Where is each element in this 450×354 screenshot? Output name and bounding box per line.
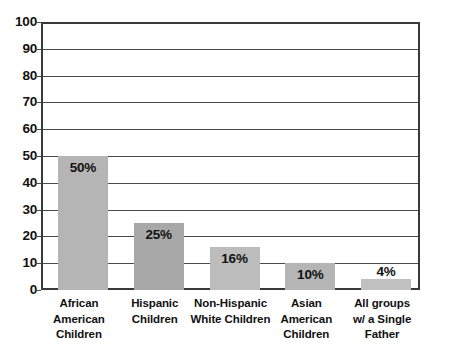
x-axis-category-label: AfricanAmericanChildren [35,296,123,343]
x-axis-category-label: Non-HispanicWhite Children [187,296,275,327]
bar-value-label: 25% [134,227,184,242]
bar: 16% [210,247,260,290]
x-axis-label-line: All groups [338,296,426,312]
x-axis-label-line: Father [338,327,426,343]
x-axis-label-line: Children [111,312,199,328]
y-axis-tick-label: 20 [3,229,37,243]
y-axis-tick-label: 50 [3,149,37,163]
y-axis-tick-label: 40 [3,176,37,190]
x-axis-label-line: Hispanic [111,296,199,312]
bar: 25% [134,223,184,290]
y-axis-tickmark [35,290,41,291]
y-axis-tick-label: 70 [3,95,37,109]
bar: 50% [58,156,108,290]
y-axis-tick-label: 60 [3,122,37,136]
bar-value-label: 4% [361,264,411,279]
y-axis-tick-label: 10 [3,256,37,270]
y-axis-tick-label: 90 [3,42,37,56]
bar: 4% [361,279,411,290]
x-axis-label-line: Asian [262,296,350,312]
x-axis-category-label: HispanicChildren [111,296,199,327]
x-axis-label-line: African [35,296,123,312]
y-axis-tick-label: 30 [3,203,37,217]
x-axis-category-label: All groupsw/ a SingleFather [338,296,426,343]
bar-chart: 1009080706050403020100 50%25%16%10%4% Af… [0,0,450,354]
y-axis-tick-label: 80 [3,69,37,83]
y-axis-labels: 1009080706050403020100 [0,0,37,354]
bar-value-label: 16% [210,251,260,266]
x-axis-label-line: American [35,312,123,328]
y-axis-tick-label: 100 [3,15,37,29]
x-axis-category-label: AsianAmericanChildren [262,296,350,343]
bars-layer: 50%25%16%10%4% [41,22,420,290]
y-axis-tick-label: 0 [3,283,37,297]
bar-value-label: 50% [58,160,108,175]
x-axis-label-line: Children [35,327,123,343]
x-axis-label-line: Children [262,327,350,343]
x-axis-labels: AfricanAmericanChildrenHispanicChildrenN… [41,296,420,354]
x-axis-label-line: Non-Hispanic [187,296,275,312]
bar: 10% [285,263,335,290]
x-axis-label-line: w/ a Single [338,312,426,328]
x-axis-label-line: White Children [187,312,275,328]
bar-value-label: 10% [285,267,335,282]
x-axis-label-line: American [262,312,350,328]
